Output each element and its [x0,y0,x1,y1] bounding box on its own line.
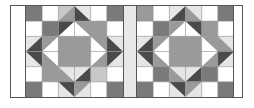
middle-sashing-strip [123,6,137,97]
quilt-cell-r3-c3 [186,52,202,67]
quilt-cell-r2-c3 [75,36,91,51]
quilt-block-right-svg [137,6,234,97]
quilt-cell-r4-c1 [42,67,58,82]
quilt-cell-r5-c4 [202,82,218,97]
quilt-frame [10,5,243,98]
quilt-cell-r0-c1 [42,6,58,21]
quilt-cell-r4-c5 [107,67,123,82]
quilt-cell-r0-c0 [26,6,42,21]
quilt-cell-r1-c1 [42,21,58,36]
quilt-block-right [137,6,234,97]
quilt-cell-r3-c2 [58,52,74,67]
quilt-cell-r5-c0 [26,82,42,97]
quilt-cell-r1-c5 [218,21,234,36]
quilt-cell-r5-c0 [137,82,153,97]
quilt-cell-r4-c4 [91,67,107,82]
quilt-cell-r3-c3 [75,52,91,67]
quilt-cell-r1-c0 [137,21,153,36]
quilt-cell-r4-c4 [202,67,218,82]
quilt-cell-r0-c1 [153,6,169,21]
quilt-cell-r4-c0 [137,67,153,82]
quilt-cell-r2-c3 [186,36,202,51]
quilt-cell-r5-c1 [42,82,58,97]
quilt-cell-r5-c5 [218,82,234,97]
quilt-cell-r5-c5 [107,82,123,97]
quilt-cell-r1-c4 [91,21,107,36]
quilt-cell-r0-c5 [107,6,123,21]
quilt-cell-r1-c0 [26,21,42,36]
quilt-cell-r0-c4 [91,6,107,21]
quilt-cell-r4-c0 [26,67,42,82]
quilt-cell-r4-c5 [218,67,234,82]
quilt-cell-r4-c1 [153,67,169,82]
right-sashing-strip [233,6,242,97]
quilt-block-left [26,6,123,97]
quilt-cell-r5-c4 [91,82,107,97]
quilt-cell-r1-c1 [153,21,169,36]
quilt-cell-r2-c2 [58,36,74,51]
quilt-cell-r1-c4 [202,21,218,36]
quilt-cell-r5-c1 [153,82,169,97]
quilt-cell-r0-c0 [137,6,153,21]
quilt-cell-r2-c2 [169,36,185,51]
quilt-cell-r0-c4 [202,6,218,21]
quilt-block-left-svg [26,6,123,97]
quilt-cell-r3-c2 [169,52,185,67]
quilt-cell-r1-c5 [107,21,123,36]
quilt-cell-r0-c5 [218,6,234,21]
left-sashing-strip [11,6,26,97]
